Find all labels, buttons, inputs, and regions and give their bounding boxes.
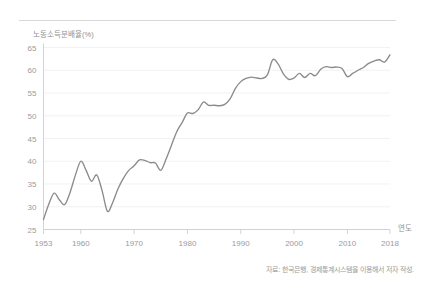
- y-tick-label: 30: [28, 203, 37, 212]
- y-tick-label: 65: [28, 44, 37, 53]
- y-tick-label: 35: [28, 180, 37, 189]
- x-tick-label: 1960: [72, 239, 90, 248]
- x-tick-label-group: 19531960197019801990200020102018: [35, 239, 400, 248]
- y-tick-label: 25: [28, 226, 37, 235]
- line-chart-plot: 253035404550556065 195319601970198019902…: [0, 0, 426, 282]
- x-tick-label: 2010: [338, 239, 356, 248]
- y-tick-label: 50: [28, 112, 37, 121]
- x-tick-label: 1990: [232, 239, 250, 248]
- x-tick-label: 1953: [35, 239, 53, 248]
- x-axis-group: [44, 230, 391, 235]
- y-tick-label: 40: [28, 157, 37, 166]
- x-tick-label: 1970: [125, 239, 143, 248]
- x-tick-label: 1980: [179, 239, 197, 248]
- gridline-group: [44, 44, 391, 230]
- data-series-line: [44, 55, 391, 220]
- x-tick-label: 2000: [285, 239, 303, 248]
- figure-container: 노동소득분배율(%) 연도 253035404550556065 1953196…: [0, 0, 426, 282]
- x-tick-label: 2018: [381, 239, 399, 248]
- y-tick-label-group: 253035404550556065: [28, 44, 37, 235]
- source-note: 자료: 한국은행, 경제통계시스템을 이용해서 저자 작성.: [0, 264, 414, 274]
- y-tick-label: 60: [28, 66, 37, 75]
- y-tick-label: 45: [28, 135, 37, 144]
- y-tick-label: 55: [28, 89, 37, 98]
